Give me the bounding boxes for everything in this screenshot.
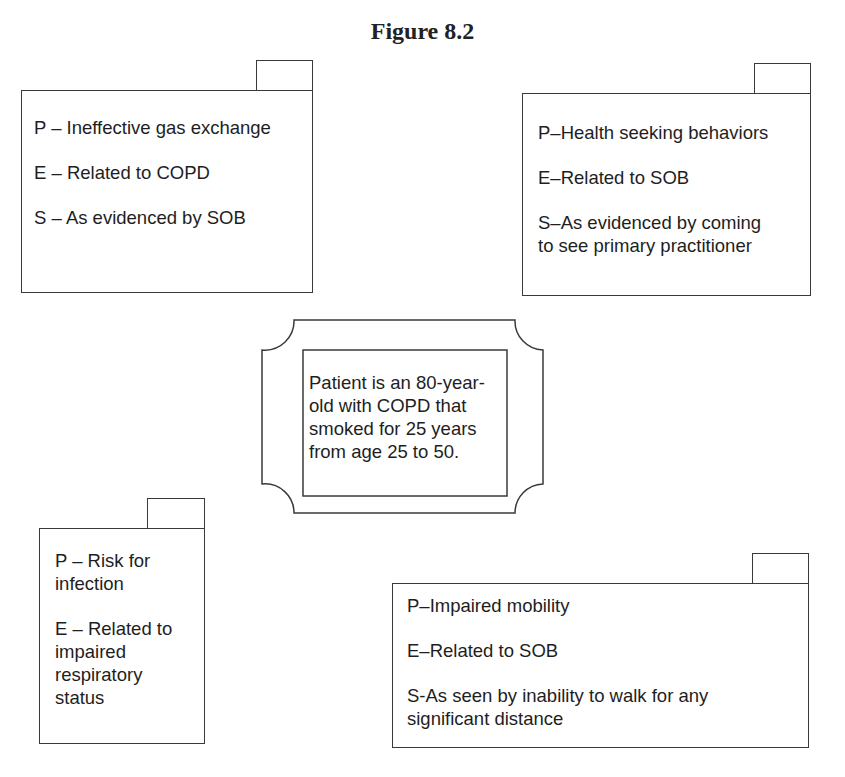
etiology-text: E–Related to SOB (407, 639, 808, 662)
etiology-text-line-3: respiratory (55, 663, 204, 686)
symptoms-text-line-1: S-As seen by inability to walk for any (407, 684, 808, 707)
etiology-text-line-1: E – Related to (55, 617, 204, 640)
patient-summary-line-4: from age 25 to 50. (309, 440, 485, 463)
problem-text: P–Impaired mobility (407, 594, 808, 617)
folder-tab-bottom-right (752, 553, 809, 585)
diagnosis-box-bottom-left: P – Risk for infection E – Related to im… (39, 528, 205, 744)
problem-text-line-2: infection (55, 572, 204, 595)
diagnosis-box-bottom-right: P–Impaired mobility E–Related to SOB S-A… (392, 583, 809, 748)
etiology-text-line-2: impaired (55, 640, 204, 663)
folder-tab-bottom-left (147, 498, 205, 530)
symptoms-text-line-2: significant distance (407, 707, 808, 730)
problem-text-line-1: P – Risk for (55, 549, 204, 572)
patient-summary-line-3: smoked for 25 years (309, 417, 485, 440)
etiology-text-line-4: status (55, 686, 204, 709)
patient-summary-line-1: Patient is an 80-year- (309, 371, 485, 394)
patient-summary-line-2: old with COPD that (309, 394, 485, 417)
patient-summary: Patient is an 80-year- old with COPD tha… (309, 371, 485, 463)
